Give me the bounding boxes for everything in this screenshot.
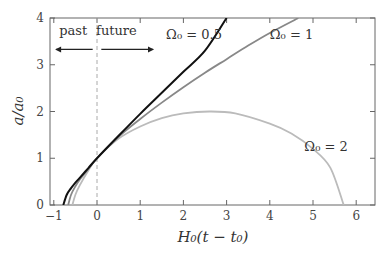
x-tick-label: 1	[136, 209, 144, 223]
x-tick-label: 0	[93, 209, 101, 223]
x-tick-label: 2	[180, 209, 188, 223]
x-axis-title: H₀(t − t₀)	[177, 228, 249, 246]
y-tick-label: 0	[36, 198, 44, 212]
x-tick-label: 5	[309, 209, 317, 223]
series-line-1	[68, 18, 298, 205]
series-line-2	[72, 111, 343, 205]
y-tick-label: 4	[36, 11, 44, 25]
y-tick-label: 3	[36, 58, 44, 72]
axes: −1012345601234	[36, 11, 375, 223]
x-tick-label: 3	[223, 209, 231, 223]
future-label: future	[96, 23, 137, 38]
y-tick-label: 1	[36, 151, 44, 165]
x-tick-label: −1	[45, 209, 63, 223]
x-tick-label: 4	[266, 209, 274, 223]
annotations: pastfuture	[55, 23, 154, 52]
y-axis-title: a/a₀	[9, 97, 27, 126]
future-arrowhead-icon	[148, 46, 154, 52]
y-tick-label: 2	[36, 105, 44, 119]
past-label: past	[59, 23, 88, 38]
chart: −1012345601234 Ω₀ = 2Ω₀ = 1Ω₀ = 0.5 past…	[0, 0, 390, 253]
data-lines: Ω₀ = 2Ω₀ = 1Ω₀ = 0.5	[63, 18, 347, 205]
series-label-1: Ω₀ = 1	[270, 27, 313, 42]
series-label-2: Ω₀ = 2	[304, 139, 347, 154]
x-tick-label: 6	[352, 209, 360, 223]
series-label-0: Ω₀ = 0.5	[166, 27, 222, 42]
past-arrowhead-icon	[55, 46, 61, 52]
